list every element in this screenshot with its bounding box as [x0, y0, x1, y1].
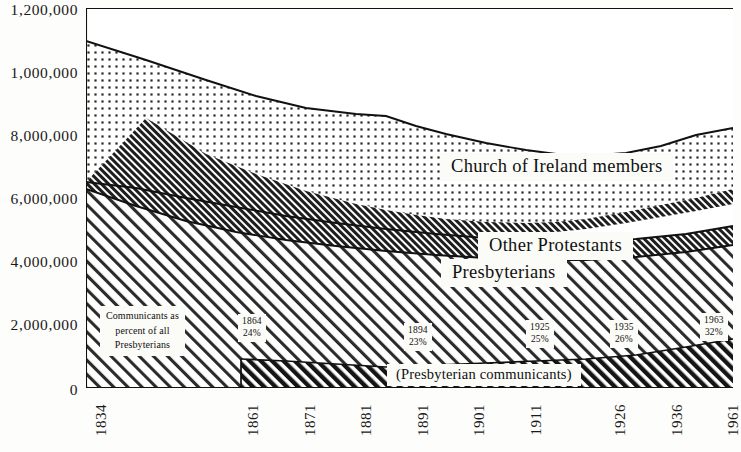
annotation-1963: 1963 32% — [700, 313, 728, 341]
y-axis-tick-label: 8,000,000 — [11, 128, 78, 144]
annotation-1925: 1925 25% — [526, 320, 554, 348]
x-axis-tick-label: 1834 — [94, 404, 109, 436]
band-label-presbyterian-communicants: (Presbyterian communicants) — [387, 364, 581, 386]
y-axis-tick-label: 2,000,000 — [11, 317, 78, 333]
x-axis-labels: 1834 1861 1871 1881 1891 1901 1911 1926 … — [0, 404, 733, 452]
band-label-presbyterians: Presbyterians — [441, 259, 567, 287]
y-axis-tick-label: 1,200,000 — [11, 2, 78, 18]
annotation-1864-year: 1864 — [242, 316, 262, 328]
annotation-1925-value: 25% — [530, 334, 550, 346]
x-axis-tick-label: 1901 — [472, 404, 487, 436]
annotation-1864-value: 24% — [242, 328, 262, 340]
band-label-other-protestants: Other Protestants — [478, 232, 633, 260]
annotation-1935-year: 1935 — [614, 322, 634, 334]
annotation-1963-value: 32% — [704, 327, 724, 339]
y-axis-tick-label: 4,000,000 — [11, 254, 78, 270]
x-axis-tick-label: 1891 — [416, 404, 431, 436]
y-axis-tick-label: 1,000,000 — [11, 65, 78, 81]
communicants-note-line-3: Presbyterians — [106, 338, 179, 353]
communicants-note-line-1: Communicants as — [106, 309, 179, 324]
x-axis-tick-label: 1871 — [303, 404, 318, 436]
annotation-1864: 1864 24% — [238, 314, 266, 342]
plot-area: Church of Ireland members Other Protesta… — [86, 8, 733, 388]
annotation-1925-year: 1925 — [530, 322, 550, 334]
x-axis-tick-label: 1911 — [529, 404, 544, 435]
x-axis-tick-label: 1881 — [359, 404, 374, 436]
y-axis-tick-label: 6,000,000 — [11, 191, 78, 207]
annotation-1935-value: 26% — [614, 334, 634, 346]
band-label-church-of-ireland: Church of Ireland members — [440, 153, 673, 181]
x-axis-tick-label: 1861 — [246, 404, 261, 436]
annotation-1935: 1935 26% — [610, 320, 638, 348]
y-axis-tick-label: 0 — [70, 382, 78, 398]
annotation-1894-year: 1894 — [408, 325, 428, 337]
y-axis-labels: 1,200,000 1,000,000 8,000,000 6,000,000 … — [0, 0, 78, 400]
x-axis-tick-label: 1926 — [613, 404, 628, 436]
annotation-1894: 1894 23% — [404, 323, 432, 351]
x-axis-tick-label: 1936 — [670, 404, 685, 436]
x-axis-tick-label: 1961 — [726, 404, 741, 436]
annotation-1963-year: 1963 — [704, 315, 724, 327]
annotation-1894-value: 23% — [408, 337, 428, 349]
communicants-percent-note: Communicants as percent of all Presbyter… — [100, 306, 185, 356]
communicants-note-line-2: percent of all — [106, 324, 179, 339]
